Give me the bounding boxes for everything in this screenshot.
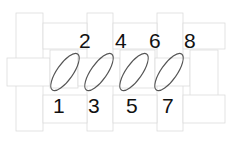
- grid-rect: [78, 58, 120, 86]
- grid-rect: [190, 50, 218, 100]
- label-5: 5: [126, 94, 138, 117]
- woven-diagram: 24681357: [0, 0, 239, 150]
- label-8: 8: [184, 29, 196, 52]
- grid-rect: [43, 95, 87, 123]
- grid-rect: [50, 50, 78, 88]
- label-4: 4: [115, 29, 127, 52]
- grid-rect: [120, 50, 155, 88]
- label-3: 3: [88, 94, 100, 117]
- grid-rect: [7, 58, 50, 86]
- label-7: 7: [162, 94, 174, 117]
- label-6: 6: [149, 29, 161, 52]
- label-1: 1: [53, 94, 65, 117]
- label-2: 2: [79, 29, 91, 52]
- grid-rect: [155, 58, 190, 86]
- grid-rect: [183, 95, 225, 123]
